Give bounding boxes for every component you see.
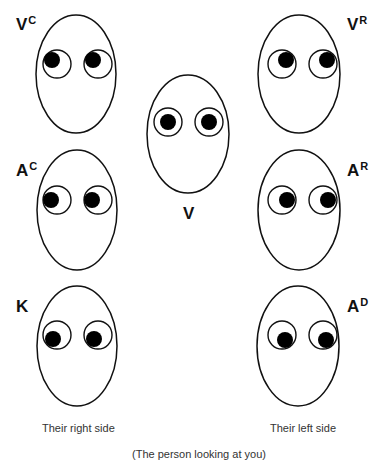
label-main: V [16,15,27,34]
left-eye [43,321,71,349]
pupil-icon [86,331,102,347]
pupil-icon [277,332,293,348]
label-main: A [16,161,28,180]
pupil-icon [160,114,176,130]
pupil-icon [43,192,59,208]
left-eye [268,50,296,78]
label-main: V [183,204,194,223]
right-eye [309,321,337,349]
label-main: K [16,297,28,316]
right-eye [195,108,223,136]
pupil-icon [279,192,295,208]
label-sup: C [28,14,36,26]
face-vr [258,15,340,133]
face-k [37,286,117,406]
pupil-icon [319,52,335,68]
label-sup: R [359,14,367,26]
label-auditory-digital: AD [347,298,368,315]
face-ar [258,150,340,270]
label-auditory-constructed: AC [16,162,37,179]
pupil-icon [318,332,334,348]
pupil-icon [278,52,294,68]
caption-their-left-side: Their left side [270,423,336,434]
pupil-icon [45,331,61,347]
label-main: A [347,161,359,180]
right-eye [84,50,112,78]
label-main: A [347,297,359,316]
label-visual-remembered: VR [347,16,367,33]
caption-their-right-side: Their right side [42,423,115,434]
face-ac [37,150,117,270]
right-eye [309,186,337,214]
pupil-icon [320,192,336,208]
label-visual-constructed: VC [16,16,36,33]
left-eye [43,186,71,214]
label-kinesthetic: K [16,298,28,315]
left-eye [268,321,296,349]
label-auditory-remembered: AR [347,162,368,179]
caption-person-looking-at-you: (The person looking at you) [132,449,266,460]
pupil-icon [201,114,217,130]
label-sup: D [360,296,368,308]
label-sup: R [360,160,368,172]
left-eye [268,186,296,214]
left-eye [43,50,71,78]
pupil-icon [84,192,100,208]
right-eye [84,321,112,349]
right-eye [309,50,337,78]
face-vc [36,15,116,133]
pupil-icon [44,52,60,68]
left-eye [154,108,182,136]
face-v [147,75,229,193]
label-main: V [347,15,358,34]
right-eye [84,186,112,214]
label-sup: C [29,160,37,172]
label-visual: V [183,205,194,222]
pupil-icon [85,52,101,68]
face-ad [257,286,339,406]
